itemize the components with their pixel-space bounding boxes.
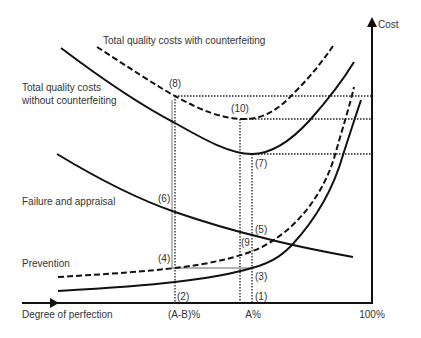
marker-10: (10): [231, 103, 249, 114]
label-failure-appraisal: Failure and appraisal: [22, 196, 115, 207]
label-total-with: Total quality costs with counterfeiting: [103, 35, 265, 46]
marker-3: (3): [255, 271, 267, 282]
y-axis-label: Cost: [378, 19, 399, 30]
marker-6: (6): [158, 193, 170, 204]
x-tick-ab: (A-B)%: [168, 309, 200, 320]
y-axis-arrow-icon: [367, 17, 377, 27]
marker-1: (1): [255, 291, 267, 302]
x-axis-arrow-icon: [50, 298, 59, 308]
marker-7: (7): [255, 158, 267, 169]
x-tick-a: A%: [245, 309, 261, 320]
marker-4: (4): [158, 253, 170, 264]
label-prevention: Prevention: [22, 258, 70, 269]
diagram-canvas: Total quality costs with counterfeiting …: [0, 0, 421, 338]
label-total-without-2: without counterfeiting: [21, 95, 117, 106]
x-tick-100: 100%: [359, 309, 385, 320]
quality-cost-diagram: Total quality costs with counterfeiting …: [0, 0, 421, 338]
axes: [22, 17, 377, 308]
marker-2: (2): [177, 291, 189, 302]
marker-5: (5): [255, 224, 267, 235]
curve-total-with-counterfeiting: [97, 46, 333, 119]
x-axis-label: Degree of perfection: [22, 309, 113, 320]
marker-9: (9: [241, 237, 250, 248]
label-total-without-1: Total quality costs: [22, 82, 101, 93]
marker-8: (8): [169, 78, 181, 89]
